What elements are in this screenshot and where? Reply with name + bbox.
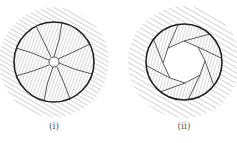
iris-open-diagram (118, 0, 237, 120)
figure-ii: (ii) (118, 0, 237, 143)
figure-i: (i) (0, 0, 118, 143)
iris-closed-diagram (0, 0, 118, 120)
figure-label-i: (i) (39, 121, 69, 131)
aperture (49, 57, 59, 67)
figure-label-ii: (ii) (169, 121, 199, 131)
